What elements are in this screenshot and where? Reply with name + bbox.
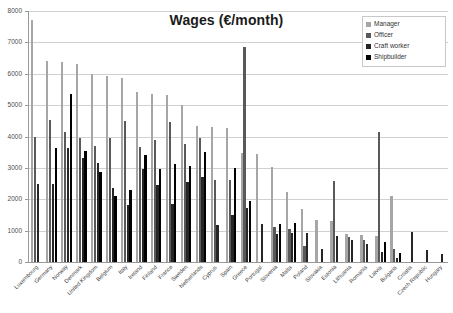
- bar-group: [29, 11, 44, 262]
- bar-shipbuilder: [70, 94, 72, 262]
- y-axis-tick-mark: [25, 262, 28, 263]
- bar-craft-worker: [321, 249, 323, 262]
- bar-shipbuilder: [174, 164, 176, 262]
- legend-swatch-icon: [366, 33, 371, 38]
- bar-craft-worker: [351, 240, 353, 262]
- bar-group: [164, 11, 179, 262]
- y-axis-tick-mark: [25, 168, 28, 169]
- bar-group: [253, 11, 268, 262]
- bar-group: [44, 11, 59, 262]
- y-axis-tick-label: 5000: [0, 101, 22, 108]
- bar-group: [149, 11, 164, 262]
- x-axis-label: Finland: [141, 264, 158, 281]
- y-axis-tick-label: 2000: [0, 195, 22, 202]
- bar-shipbuilder: [84, 151, 86, 262]
- y-axis-tick-label: 6000: [0, 70, 22, 77]
- x-axis-label: Malta: [279, 264, 293, 278]
- legend-item: Manager: [366, 19, 442, 29]
- bar-group: [194, 11, 209, 262]
- y-axis-tick-mark: [25, 199, 28, 200]
- bar-shipbuilder: [129, 190, 131, 262]
- bar-group: [209, 11, 224, 262]
- x-axis-category-labels: LuxembourgGermanyNorwayDenmarkUnited Kin…: [29, 263, 448, 313]
- bar-shipbuilder: [144, 155, 146, 262]
- bar-group: [328, 11, 343, 262]
- y-axis-tick-mark: [25, 11, 28, 12]
- y-axis-tick-mark: [25, 42, 28, 43]
- legend-item: Officer: [366, 30, 442, 40]
- bar-craft-worker: [336, 236, 338, 262]
- bar-group: [74, 11, 89, 262]
- x-axis-label: Italy: [117, 264, 129, 276]
- bar-craft-worker: [37, 184, 39, 262]
- bar-group: [298, 11, 313, 262]
- bar-shipbuilder: [294, 223, 296, 262]
- bar-shipbuilder: [189, 166, 191, 262]
- chart-legend: ManagerOfficerCraft workerShipbuilder: [362, 16, 446, 67]
- bar-group: [134, 11, 149, 262]
- bar-craft-worker: [366, 244, 368, 262]
- bar-craft-worker: [261, 224, 263, 262]
- y-axis-tick-label: 8000: [0, 7, 22, 14]
- legend-label: Shipbuilder: [374, 53, 407, 61]
- bar-shipbuilder: [249, 201, 251, 262]
- bar-shipbuilder: [159, 169, 161, 262]
- bar-officer: [378, 132, 380, 262]
- y-axis-tick-mark: [25, 74, 28, 75]
- bar-craft-worker: [306, 233, 308, 262]
- legend-item: Shipbuilder: [366, 52, 442, 62]
- bar-group: [268, 11, 283, 262]
- legend-label: Officer: [374, 31, 393, 39]
- bar-group: [313, 11, 328, 262]
- bar-craft-worker: [441, 254, 443, 262]
- bar-shipbuilder: [55, 148, 57, 262]
- y-axis-tick-mark: [25, 105, 28, 106]
- y-axis-tick-label: 4000: [0, 133, 22, 140]
- bar-craft-worker: [216, 225, 218, 262]
- x-axis-label: Cyprus: [201, 264, 218, 281]
- legend-item: Craft worker: [366, 41, 442, 51]
- bar-manager: [315, 220, 317, 262]
- bar-group: [89, 11, 104, 262]
- bar-craft-worker: [411, 232, 413, 262]
- y-axis-tick-label: 3000: [0, 164, 22, 171]
- legend-swatch-icon: [366, 22, 371, 27]
- y-axis-tick-label: 7000: [0, 38, 22, 45]
- bar-group: [224, 11, 239, 262]
- legend-swatch-icon: [366, 44, 371, 49]
- bar-shipbuilder: [234, 168, 236, 262]
- bar-shipbuilder: [384, 242, 386, 262]
- y-axis-tick-mark: [25, 231, 28, 232]
- bar-manager: [256, 154, 258, 262]
- bar-shipbuilder: [99, 172, 101, 262]
- legend-label: Manager: [374, 20, 400, 28]
- bar-craft-worker: [426, 250, 428, 262]
- bar-shipbuilder: [114, 196, 116, 262]
- legend-label: Craft worker: [374, 42, 409, 50]
- bar-group: [104, 11, 119, 262]
- wages-bar-chart: Wages (€/month) 010002000300040005000600…: [0, 0, 453, 313]
- y-axis-tick-label: 1000: [0, 227, 22, 234]
- legend-swatch-icon: [366, 55, 371, 60]
- bar-group: [59, 11, 74, 262]
- y-axis-tick-mark: [25, 137, 28, 138]
- bar-group: [283, 11, 298, 262]
- bar-group: [119, 11, 134, 262]
- y-axis-tick-label: 0: [0, 258, 22, 265]
- bar-shipbuilder: [399, 253, 401, 262]
- bar-group: [179, 11, 194, 262]
- bar-shipbuilder: [279, 224, 281, 262]
- bar-shipbuilder: [204, 152, 206, 262]
- bar-group: [343, 11, 358, 262]
- bar-group: [239, 11, 254, 262]
